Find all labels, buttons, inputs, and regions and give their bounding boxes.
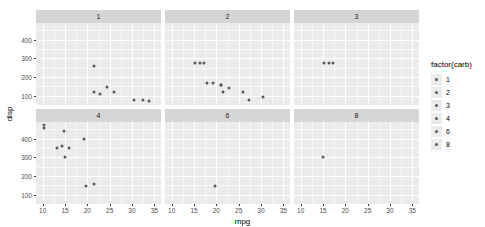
gridline-major-vertical bbox=[261, 23, 262, 105]
gridline-major-vertical bbox=[194, 122, 195, 204]
gridline-major-horizontal bbox=[36, 40, 161, 41]
data-point bbox=[227, 87, 230, 90]
data-point bbox=[221, 90, 224, 93]
x-axis-tick-mark bbox=[172, 204, 173, 206]
y-axis-tick-mark bbox=[34, 58, 36, 59]
data-point bbox=[328, 61, 331, 64]
gridline-major-horizontal bbox=[294, 157, 419, 158]
facet-strip-1: 1 bbox=[36, 10, 161, 23]
gridline-minor-vertical bbox=[205, 122, 206, 204]
data-point bbox=[203, 61, 206, 64]
gridline-major-vertical bbox=[132, 122, 133, 204]
gridline-major-vertical bbox=[216, 23, 217, 105]
legend-key-glyph-icon bbox=[431, 74, 442, 85]
y-axis-tick-mark bbox=[34, 176, 36, 177]
x-axis-tick-mark bbox=[345, 204, 346, 206]
legend-entry-label: 1 bbox=[446, 76, 450, 83]
legend-key-glyph-icon bbox=[431, 87, 442, 98]
data-point bbox=[148, 100, 151, 103]
gridline-major-horizontal bbox=[165, 40, 290, 41]
data-point bbox=[247, 98, 250, 101]
data-point bbox=[43, 126, 46, 129]
legend-entry-label: 4 bbox=[446, 115, 450, 122]
gridline-major-horizontal bbox=[165, 58, 290, 59]
legend: factor(carb) 123468 bbox=[431, 60, 472, 151]
gridline-minor-vertical bbox=[334, 122, 335, 204]
data-point bbox=[193, 61, 196, 64]
gridline-major-vertical bbox=[283, 23, 284, 105]
y-axis-tick-mark bbox=[34, 195, 36, 196]
x-axis-tick-mark bbox=[65, 204, 66, 206]
gridline-minor-vertical bbox=[312, 122, 313, 204]
x-axis-tick-mark bbox=[301, 204, 302, 206]
gridline-minor-vertical bbox=[250, 23, 251, 105]
x-axis-tick-label: 35 bbox=[280, 207, 287, 214]
x-axis-tick-label: 30 bbox=[257, 207, 264, 214]
data-point bbox=[211, 82, 214, 85]
gridline-major-vertical bbox=[110, 23, 111, 105]
x-axis-tick-mark bbox=[390, 204, 391, 206]
data-point bbox=[219, 83, 222, 86]
gridline-minor-vertical bbox=[183, 122, 184, 204]
gridline-major-horizontal bbox=[36, 77, 161, 78]
gridline-minor-vertical bbox=[228, 23, 229, 105]
y-axis-tick-mark bbox=[34, 40, 36, 41]
gridline-major-vertical bbox=[172, 122, 173, 204]
gridline-major-vertical bbox=[301, 122, 302, 204]
x-axis-tick-mark bbox=[132, 204, 133, 206]
gridline-minor-vertical bbox=[312, 23, 313, 105]
x-axis-tick-label: 10 bbox=[168, 207, 175, 214]
x-axis-tick-label: 15 bbox=[319, 207, 326, 214]
gridline-major-horizontal bbox=[165, 139, 290, 140]
x-axis-tick-mark bbox=[110, 204, 111, 206]
data-point bbox=[242, 90, 245, 93]
x-axis-tick-label: 10 bbox=[297, 207, 304, 214]
gridline-minor-vertical bbox=[121, 23, 122, 105]
gridline-major-vertical bbox=[390, 122, 391, 204]
data-point bbox=[322, 61, 325, 64]
gridline-major-vertical bbox=[345, 23, 346, 105]
gridline-major-vertical bbox=[154, 23, 155, 105]
gridline-major-vertical bbox=[216, 122, 217, 204]
facet-strip-label: 3 bbox=[355, 13, 359, 20]
x-axis-tick-label: 35 bbox=[151, 207, 158, 214]
legend-entry-6: 6 bbox=[431, 125, 472, 138]
gridline-major-horizontal bbox=[36, 139, 161, 140]
facet-strip-label: 8 bbox=[355, 112, 359, 119]
x-axis-tick-mark bbox=[216, 204, 217, 206]
data-point bbox=[332, 61, 335, 64]
gridline-major-vertical bbox=[390, 23, 391, 105]
x-axis-tick-mark bbox=[87, 204, 88, 206]
gridline-major-vertical bbox=[87, 23, 88, 105]
data-point bbox=[199, 61, 202, 64]
facet-panel-4 bbox=[36, 122, 161, 204]
x-axis-tick-mark bbox=[261, 204, 262, 206]
data-point bbox=[113, 90, 116, 93]
facet-strip-6: 6 bbox=[165, 109, 290, 122]
y-axis-tick-mark bbox=[34, 157, 36, 158]
gridline-minor-vertical bbox=[272, 23, 273, 105]
facet-scatter-plot: disp mpg 1100200300400234100200300400101… bbox=[0, 0, 485, 227]
data-point bbox=[93, 90, 96, 93]
x-axis-tick-mark bbox=[154, 204, 155, 206]
data-point bbox=[214, 185, 217, 188]
data-point bbox=[105, 85, 108, 88]
facet-panel-1 bbox=[36, 23, 161, 105]
facet-panel-6 bbox=[165, 122, 290, 204]
legend-entry-1: 1 bbox=[431, 73, 472, 86]
y-axis-tick-label: 400 bbox=[6, 135, 32, 142]
x-axis-tick-label: 25 bbox=[106, 207, 113, 214]
gridline-major-vertical bbox=[43, 122, 44, 204]
gridline-major-horizontal bbox=[165, 77, 290, 78]
gridline-major-vertical bbox=[283, 122, 284, 204]
gridline-major-horizontal bbox=[294, 96, 419, 97]
x-axis-tick-label: 25 bbox=[364, 207, 371, 214]
gridline-major-vertical bbox=[261, 122, 262, 204]
x-axis-tick-label: 20 bbox=[213, 207, 220, 214]
gridline-minor-vertical bbox=[143, 122, 144, 204]
y-axis-tick-mark bbox=[34, 77, 36, 78]
data-point bbox=[141, 98, 144, 101]
x-axis-tick-mark bbox=[194, 204, 195, 206]
x-axis-tick-mark bbox=[43, 204, 44, 206]
gridline-major-horizontal bbox=[294, 195, 419, 196]
